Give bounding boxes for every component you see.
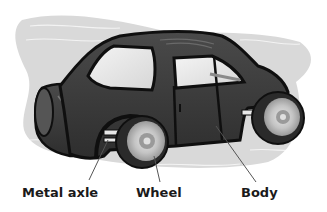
- toy-car-diagram: Metal axle Wheel Body: [0, 0, 327, 212]
- wheel-rear: [116, 116, 168, 168]
- label-body: Body: [241, 186, 278, 199]
- wheel-front: [252, 92, 304, 144]
- diagram-illustration: [0, 0, 327, 212]
- rear-panel: [35, 88, 53, 136]
- label-wheel: Wheel: [136, 186, 182, 199]
- label-metal-axle: Metal axle: [22, 186, 98, 199]
